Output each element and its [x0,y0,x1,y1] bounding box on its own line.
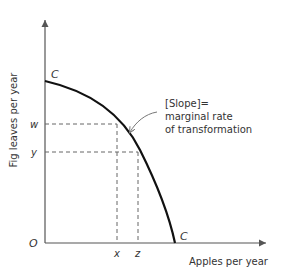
slope-annotation: [Slope]= marginal rate of transformation [165,98,252,135]
x-tick-x: x [113,248,120,259]
x-axis-title: Apples per year [189,256,269,267]
curve-label-top: C [51,68,59,81]
annotation-line-2: marginal rate [165,111,233,122]
annotation-line-3: of transformation [165,124,252,135]
origin-label: O [29,237,38,250]
y-axis-title: Fig leaves per year [8,72,19,168]
y-tick-w: w [30,119,39,130]
guide-lines [45,124,138,243]
ppf-diagram: Fig leaves per year Apples per year O C … [0,0,282,274]
annotation-line-1: [Slope]= [165,98,209,109]
ppf-curve [45,81,175,243]
curve-label-bottom: C [180,230,188,243]
x-tick-z: z [134,248,141,259]
annotation-arrow [130,112,157,132]
y-tick-y: y [30,147,38,158]
